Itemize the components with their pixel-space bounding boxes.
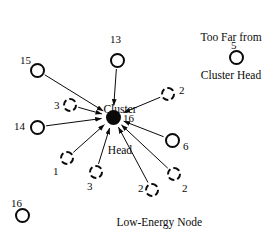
low-energy-node-annotation: Low-Energy Node bbox=[96, 203, 211, 235]
node-13[interactable] bbox=[110, 53, 125, 68]
node-2b[interactable] bbox=[167, 167, 181, 181]
node-16-far[interactable] bbox=[15, 208, 30, 223]
node-13-label: 13 bbox=[110, 33, 121, 45]
cluster-head-line-1: Cluster bbox=[91, 103, 149, 117]
cluster-head-annotation: Cluster Head bbox=[91, 76, 149, 185]
node-16-far-label: 16 bbox=[11, 197, 22, 209]
node-6-label: 6 bbox=[183, 140, 189, 152]
node-15[interactable] bbox=[30, 63, 45, 78]
too-far-line-2: Cluster Head bbox=[181, 69, 279, 82]
cluster-head-line-2: Head bbox=[91, 144, 149, 158]
node-1-label: 1 bbox=[53, 165, 59, 177]
low-energy-node-label: Low-Energy Node bbox=[116, 216, 202, 228]
node-15-label: 15 bbox=[20, 54, 31, 66]
node-3a[interactable] bbox=[63, 98, 77, 112]
too-far-annotation: Too Far from Cluster Head bbox=[181, 5, 279, 108]
node-2c[interactable] bbox=[145, 183, 159, 197]
node-6[interactable] bbox=[165, 133, 180, 148]
node-3a-label: 3 bbox=[54, 99, 60, 111]
node-2b-label: 2 bbox=[182, 182, 188, 194]
network-diagram: 131531413226251616 Too Far from Cluster … bbox=[0, 0, 279, 235]
too-far-line-1: Too Far from bbox=[181, 31, 279, 44]
node-14[interactable] bbox=[30, 120, 45, 135]
node-14-label: 14 bbox=[14, 120, 25, 132]
node-1[interactable] bbox=[60, 151, 74, 165]
node-2a[interactable] bbox=[161, 87, 175, 101]
